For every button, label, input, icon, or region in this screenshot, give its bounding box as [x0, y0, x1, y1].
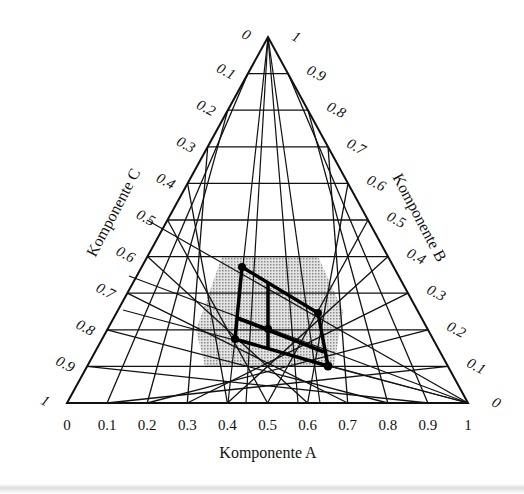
svg-text:0.6: 0.6 — [114, 243, 139, 266]
svg-text:1: 1 — [38, 392, 52, 410]
svg-text:0.9: 0.9 — [419, 417, 438, 433]
svg-text:0.4: 0.4 — [154, 170, 179, 193]
svg-text:0.4: 0.4 — [404, 245, 429, 268]
svg-text:0: 0 — [63, 417, 71, 433]
svg-text:0: 0 — [239, 26, 254, 44]
svg-text:0.3: 0.3 — [178, 417, 197, 433]
svg-text:0.6: 0.6 — [364, 172, 389, 195]
svg-text:0.3: 0.3 — [174, 133, 198, 156]
svg-text:0.1: 0.1 — [214, 60, 238, 83]
ternary-diagram: 00.10.20.30.40.50.60.70.80.91 00.10.20.3… — [0, 0, 524, 494]
svg-text:0.7: 0.7 — [338, 417, 357, 433]
svg-text:0.1: 0.1 — [464, 355, 488, 378]
svg-text:0.5: 0.5 — [258, 417, 277, 433]
svg-text:0.6: 0.6 — [298, 417, 317, 433]
svg-text:0.2: 0.2 — [138, 417, 157, 433]
svg-text:0.2: 0.2 — [444, 318, 469, 341]
svg-text:0.8: 0.8 — [74, 316, 99, 339]
point-5 — [324, 362, 333, 371]
svg-text:0.9: 0.9 — [304, 62, 329, 85]
svg-text:0.4: 0.4 — [218, 417, 237, 433]
svg-text:0.8: 0.8 — [378, 417, 397, 433]
svg-text:0.9: 0.9 — [53, 353, 78, 376]
svg-text:0.8: 0.8 — [324, 98, 349, 121]
axis-a-label: Komponente A — [219, 444, 317, 462]
axis-c-label: Komponente C — [83, 165, 145, 259]
svg-text:0.7: 0.7 — [344, 135, 369, 159]
svg-text:0.7: 0.7 — [94, 279, 119, 303]
svg-text:0.5: 0.5 — [134, 206, 159, 229]
point-1 — [238, 263, 246, 271]
point-3 — [264, 325, 272, 333]
svg-text:1: 1 — [464, 417, 472, 433]
svg-text:0.3: 0.3 — [424, 281, 448, 304]
point-2 — [314, 309, 322, 317]
svg-text:0.5: 0.5 — [384, 208, 409, 231]
svg-text:0: 0 — [489, 394, 504, 412]
svg-text:0.2: 0.2 — [194, 96, 219, 119]
point-4 — [231, 335, 239, 343]
axis-a-ticks: 00.10.20.30.40.50.60.70.80.91 — [63, 417, 472, 433]
page-edge — [0, 484, 524, 494]
svg-text:1: 1 — [289, 28, 303, 46]
svg-text:0.1: 0.1 — [98, 417, 117, 433]
